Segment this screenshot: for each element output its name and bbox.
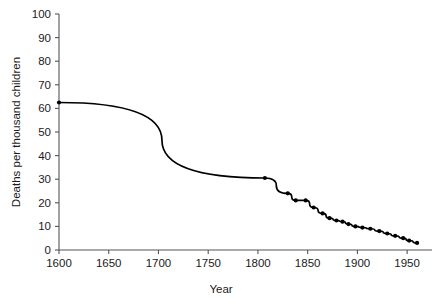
data-point-marker — [327, 216, 331, 220]
x-axis-tick-label: 1600 — [46, 257, 72, 269]
data-point-marker — [377, 229, 381, 233]
data-point-marker — [304, 198, 308, 202]
data-point-marker — [385, 231, 389, 235]
data-point-marker — [407, 238, 411, 242]
x-axis-title: Year — [209, 283, 232, 295]
y-axis-tick-label: 50 — [38, 126, 51, 138]
data-point-marker — [263, 176, 267, 180]
data-point-marker — [346, 222, 350, 226]
data-point-marker — [334, 218, 338, 222]
data-point-marker — [320, 211, 324, 215]
x-axis-tick-label: 1800 — [245, 257, 271, 269]
data-point-marker — [353, 224, 357, 228]
x-axis-tick-label: 1750 — [195, 257, 221, 269]
y-axis-tick-label: 90 — [38, 32, 51, 44]
data-point-marker — [312, 205, 316, 209]
y-axis-tick-label: 70 — [38, 79, 51, 91]
data-point-marker — [360, 225, 364, 229]
chart-figure: 0102030405060708090100 16001650170017501… — [0, 0, 441, 307]
x-axis-tick-label: 1900 — [345, 257, 371, 269]
data-point-marker — [294, 198, 298, 202]
y-axis-tick-label: 10 — [38, 220, 51, 232]
y-axis-tick-label: 100 — [32, 8, 51, 20]
data-point-marker — [415, 241, 419, 245]
data-point-marker — [286, 191, 290, 195]
y-axis-tick-label: 20 — [38, 197, 51, 209]
data-point-marker — [401, 236, 405, 240]
y-axis-tick-label: 30 — [38, 173, 51, 185]
line-chart-canvas: 0102030405060708090100 16001650170017501… — [0, 0, 441, 307]
data-point-marker — [393, 234, 397, 238]
x-axis-tick-label: 1850 — [295, 257, 321, 269]
data-point-marker — [340, 220, 344, 224]
y-axis-tick-label: 80 — [38, 55, 51, 67]
y-axis-tick-label: 40 — [38, 150, 51, 162]
y-axis-tick-label: 0 — [45, 244, 51, 256]
x-axis-tick-label: 1650 — [96, 257, 122, 269]
x-axis-tick-label: 1700 — [146, 257, 172, 269]
data-point-marker — [57, 100, 61, 104]
y-axis-tick-label: 60 — [38, 102, 51, 114]
y-axis-title: Deaths per thousand children — [10, 57, 22, 207]
x-axis-tick-label: 1950 — [394, 257, 420, 269]
data-point-marker — [368, 227, 372, 231]
